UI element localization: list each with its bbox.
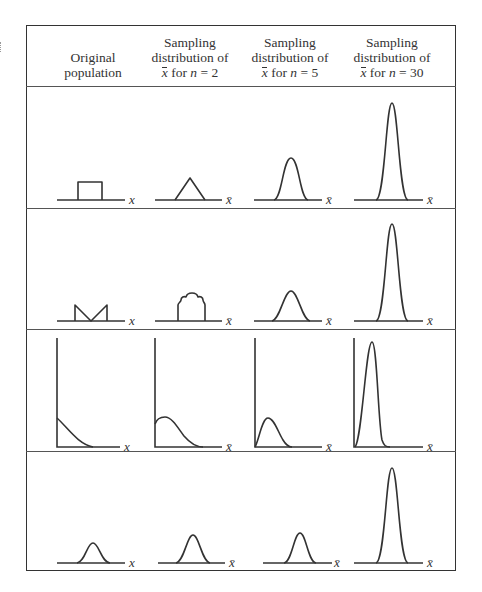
- axis-line: [255, 338, 322, 447]
- density-curve: [77, 543, 110, 563]
- axis-label: x̄: [426, 192, 433, 207]
- panel-uniform-n2: x̄: [155, 178, 232, 207]
- panel-exponential-n5: x̄: [255, 338, 332, 454]
- density-curve: [75, 305, 107, 321]
- panel-uniform-n30: x̄: [354, 103, 433, 207]
- density-curve: [57, 418, 93, 447]
- density-curve: [255, 418, 292, 447]
- panel-exponential-n30: x̄: [354, 338, 433, 454]
- density-curve: [178, 293, 205, 321]
- distribution-plots: xx̄x̄x̄xx̄x̄x̄xx̄x̄x̄xx̄x̄x̄: [0, 0, 482, 592]
- axis-label: x̄: [225, 439, 232, 454]
- panel-bimodal-n5: x̄: [254, 291, 332, 328]
- axis-label: x̄: [325, 192, 332, 207]
- density-curve: [284, 533, 316, 563]
- axis-label: x: [128, 555, 135, 570]
- axis-label: x: [128, 192, 135, 207]
- axis-label: x: [128, 313, 135, 328]
- axis-label: x̄: [228, 555, 235, 570]
- density-curve: [376, 468, 408, 563]
- axis-label: x: [123, 439, 130, 454]
- density-curve: [272, 291, 310, 321]
- panel-uniform-original-population: x: [57, 182, 135, 207]
- panel-normal-n30: x̄: [354, 468, 433, 570]
- density-curve: [78, 182, 102, 200]
- panel-bimodal-original-population: x: [57, 305, 135, 328]
- density-curve: [155, 417, 203, 447]
- axis-label: x̄: [426, 555, 433, 570]
- axis-label: x̄: [325, 439, 332, 454]
- panel-bimodal-n30: x̄: [354, 224, 433, 328]
- panel-bimodal-n2: x̄: [155, 293, 232, 328]
- panel-normal-n5: x̄: [263, 533, 340, 570]
- axis-label: x̄: [426, 313, 433, 328]
- panel-uniform-n5: x̄: [254, 158, 332, 207]
- panel-exponential-n2: x̄: [155, 338, 232, 454]
- axis-line: [155, 338, 222, 447]
- panel-normal-original-population: x: [57, 543, 135, 570]
- axis-label: x̄: [225, 313, 232, 328]
- axis-label: x̄: [426, 439, 433, 454]
- axis-label: x̄: [225, 192, 232, 207]
- axis-label: x̄: [325, 313, 332, 328]
- axis-line: [57, 338, 120, 447]
- density-curve: [274, 158, 308, 200]
- density-curve: [175, 178, 205, 200]
- density-curve: [376, 103, 408, 200]
- density-curve: [355, 342, 390, 447]
- density-curve: [176, 535, 210, 563]
- density-curve: [376, 224, 408, 321]
- panel-exponential-original-population: x: [57, 338, 130, 454]
- panel-normal-n2: x̄: [158, 535, 235, 570]
- axis-label: x̄: [333, 555, 340, 570]
